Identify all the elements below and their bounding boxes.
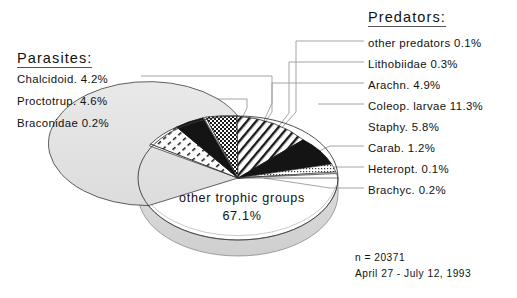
label-staphy[interactable]: Staphy. 5.8% bbox=[368, 121, 439, 133]
label-proctotrup[interactable]: Proctotrup. 4.6% bbox=[17, 95, 107, 107]
group-title-parasites: Parasites: bbox=[17, 50, 92, 66]
note-sample-size: n = 20371 bbox=[355, 252, 405, 263]
label-brachyc[interactable]: Brachyc. 0.2% bbox=[368, 184, 446, 196]
label-arachn[interactable]: Arachn. 4.9% bbox=[368, 79, 441, 91]
pie-chart-figure: Parasites: Chalcidoid. 4.2% Proctotrup. … bbox=[0, 0, 517, 298]
group-title-parasites-text: Parasites: bbox=[17, 50, 92, 68]
label-chalcidoid[interactable]: Chalcidoid. 4.2% bbox=[17, 73, 108, 85]
note-date-range: April 27 - July 12, 1993 bbox=[355, 268, 471, 279]
label-braconidae[interactable]: Braconidae 0.2% bbox=[17, 117, 109, 129]
slice-percent-other-trophic-groups: 67.1% bbox=[163, 209, 321, 223]
group-title-predators-text: Predators: bbox=[368, 9, 446, 27]
label-lithobiidae[interactable]: Lithobiidae 0.3% bbox=[368, 58, 458, 70]
slice-label-other-trophic-groups: other trophic groups bbox=[163, 191, 321, 205]
pie-body bbox=[48, 82, 338, 256]
label-heteropt[interactable]: Heteropt. 0.1% bbox=[368, 163, 449, 175]
label-carab[interactable]: Carab. 1.2% bbox=[368, 142, 435, 154]
leader-brachyc bbox=[264, 178, 364, 188]
group-title-predators: Predators: bbox=[368, 9, 446, 25]
label-other-predators[interactable]: other predators 0.1% bbox=[368, 37, 481, 49]
label-coleop-larvae[interactable]: Coleop. larvae 11.3% bbox=[368, 100, 483, 112]
